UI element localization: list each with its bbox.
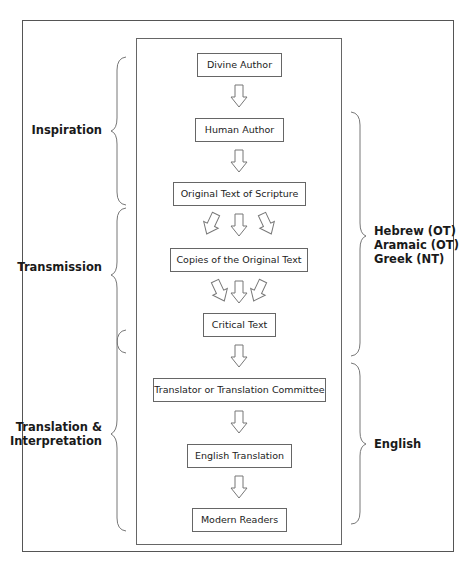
arrow-diagonal-right-icon bbox=[255, 211, 279, 238]
arrow-down-icon bbox=[231, 150, 247, 172]
arrow-down-icon bbox=[231, 281, 247, 303]
language-hebrew: Hebrew (OT) bbox=[374, 224, 459, 238]
language-aramaic: Aramaic (OT) bbox=[374, 238, 459, 252]
stage-translation-interpretation: Translation & Interpretation bbox=[10, 420, 102, 448]
arrow-down-icon bbox=[231, 85, 247, 107]
languages-original: Hebrew (OT) Aramaic (OT) Greek (NT) bbox=[374, 224, 459, 266]
arrow-diagonal-right-icon bbox=[208, 278, 232, 305]
arrow-down-icon bbox=[231, 214, 247, 236]
arrow-diagonal-left-icon bbox=[246, 278, 270, 305]
diagram-graphics bbox=[0, 0, 468, 578]
stage-translation-line2: Interpretation bbox=[10, 434, 102, 448]
language-english: English bbox=[374, 437, 421, 451]
brace-original-languages-icon bbox=[351, 112, 366, 356]
brace-translation-icon bbox=[111, 330, 126, 531]
brace-inspiration-icon bbox=[111, 57, 126, 205]
arrow-diagonal-left-icon bbox=[199, 211, 223, 238]
brace-transmission-icon bbox=[111, 208, 126, 353]
stage-inspiration: Inspiration bbox=[32, 123, 102, 137]
arrow-down-icon bbox=[231, 345, 247, 367]
language-greek: Greek (NT) bbox=[374, 252, 459, 266]
brace-english-icon bbox=[351, 363, 366, 524]
stage-translation-line1: Translation & bbox=[10, 420, 102, 434]
stage-transmission: Transmission bbox=[17, 260, 102, 274]
arrow-down-icon bbox=[231, 476, 247, 498]
arrow-down-icon bbox=[231, 411, 247, 433]
